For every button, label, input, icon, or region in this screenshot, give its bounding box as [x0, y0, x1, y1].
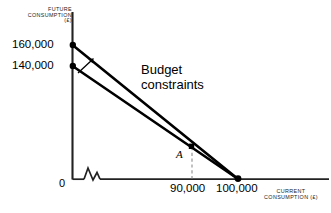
x-axis-title-line-2: CONSUMPTION (£) [252, 195, 330, 201]
budget-constraints-line-1: Budget [141, 62, 204, 77]
figure-canvas [0, 0, 331, 213]
x-axis-title: CURRENT CONSUMPTION (£) [252, 189, 330, 200]
budget-lines-pointer-arrow [78, 58, 94, 73]
budget-constraint-figure: FUTURE CONSUMPTION (£) CURRENT CONSUMPTI… [0, 0, 331, 213]
budget-constraints-annotation: Budget constraints [141, 62, 204, 93]
point-a-text-label: A [176, 149, 183, 161]
origin-label: 0 [59, 178, 65, 190]
x-tick-label-90000: 90,000 [170, 182, 205, 194]
y-tick-label-160000: 160,000 [12, 38, 54, 50]
intercept-marker-140000 [70, 63, 76, 69]
intercept-marker-100000 [235, 175, 242, 182]
budget-constraints-line-2: constraints [141, 77, 204, 92]
x-axis-break-icon [84, 168, 100, 180]
point-a-marker [189, 144, 194, 149]
y-axis-title-line-3: (£) [18, 18, 72, 24]
x-tick-label-100000: 100,000 [216, 182, 258, 194]
y-axis-title: FUTURE CONSUMPTION (£) [18, 7, 72, 24]
intercept-marker-160000 [70, 42, 76, 48]
y-tick-label-140000: 140,000 [12, 59, 54, 71]
